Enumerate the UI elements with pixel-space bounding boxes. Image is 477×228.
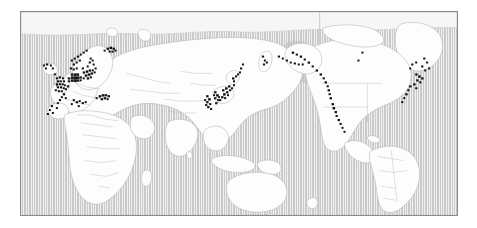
land-africa: [64, 111, 136, 205]
land-indochina: [203, 126, 228, 151]
figure-root: [0, 0, 477, 228]
land-svalbard: [106, 28, 117, 36]
polar-ice-layer: [21, 12, 457, 35]
landmass-layer: [43, 22, 443, 215]
land-new-zealand: [307, 198, 318, 209]
world-map-svg: [21, 12, 457, 215]
land-india: [165, 119, 198, 156]
land-australia: [226, 172, 287, 212]
land-sri-lanka: [186, 152, 192, 159]
land-tasmania: [266, 214, 274, 215]
land-madagascar: [141, 170, 151, 186]
land-caribbean: [367, 136, 380, 143]
map-frame: [20, 11, 458, 216]
land-novaya-zemlya: [138, 29, 151, 41]
land-indonesia: [211, 155, 255, 172]
